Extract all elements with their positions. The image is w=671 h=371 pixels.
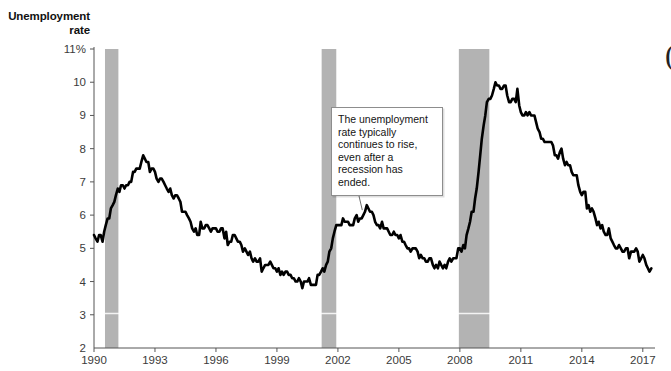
annotation-text: The unemployment rate typically continue… (338, 113, 428, 188)
annotation-callout: The unemployment rate typically continue… (331, 107, 443, 196)
y-axis-tick-label: 11% (40, 43, 86, 55)
y-axis-tick-label: 5 (40, 242, 86, 254)
x-axis-tick-label: 2011 (498, 354, 544, 366)
x-axis-tick-label: 1990 (71, 354, 117, 366)
x-axis-tick-label: 2002 (315, 354, 361, 366)
y-axis-tick-label: 8 (40, 143, 86, 155)
recession-band (322, 49, 337, 348)
y-axis-tick-label: 10 (40, 76, 86, 88)
chart-container: Unemployment rate 11%1098765432 19901993… (0, 0, 671, 371)
x-axis-tick-label: 2017 (620, 354, 666, 366)
x-axis-tick-label: 1993 (132, 354, 178, 366)
x-axis-tick-label: 2005 (376, 354, 422, 366)
y-axis-tick-label: 6 (40, 209, 86, 221)
x-axis-tick-label: 1996 (193, 354, 239, 366)
y-axis-tick-label: 4 (40, 276, 86, 288)
x-axis-tick-label: 2008 (437, 354, 483, 366)
x-axis-tick-label: 2014 (559, 354, 605, 366)
y-axis-tick-label: 3 (40, 309, 86, 321)
y-axis-tick-label: 2 (40, 342, 86, 354)
y-axis-tick-label: 9 (40, 109, 86, 121)
edge-artifact-glyph: ( (665, 40, 671, 70)
x-axis-tick-label: 1999 (254, 354, 300, 366)
y-axis-tick-label: 7 (40, 176, 86, 188)
